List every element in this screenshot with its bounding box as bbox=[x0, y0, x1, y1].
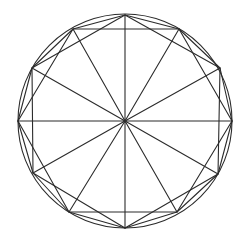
center-point bbox=[123, 119, 126, 122]
background bbox=[0, 0, 246, 246]
circle-polygon-diagram bbox=[0, 0, 246, 246]
